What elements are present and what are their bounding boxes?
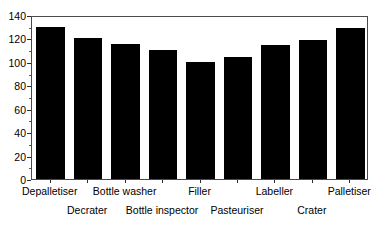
x-axis-tick-label: Bottle washer (93, 186, 157, 197)
bar (74, 38, 102, 179)
y-axis-tick-label: 40 (14, 128, 26, 139)
bar (299, 40, 327, 179)
x-axis-tick-label: Crater (297, 205, 326, 216)
x-axis-tick-mark (50, 180, 51, 183)
plot-area (31, 16, 368, 180)
x-axis-tick-mark (162, 180, 163, 183)
x-axis-tick-mark (349, 180, 350, 183)
x-axis-tick-mark (125, 180, 126, 183)
x-axis-tick-label: Labeller (256, 186, 293, 197)
x-axis-tick-label: Bottle inspector (126, 205, 198, 216)
bar (224, 57, 252, 179)
x-axis-tick-mark (237, 180, 238, 183)
bar (36, 27, 64, 179)
bar (336, 28, 364, 179)
x-axis-tick-mark (312, 180, 313, 183)
bar (261, 45, 289, 179)
y-axis-tick-label: 100 (8, 58, 26, 69)
x-axis-tick-label: Decrater (67, 205, 107, 216)
x-axis-tick-label: Palletiser (328, 186, 371, 197)
y-axis-tick-label: 80 (14, 81, 26, 92)
x-axis-tick-mark (200, 180, 201, 183)
bar (111, 44, 139, 179)
bar-chart: 020406080100120140 DepalletiserDecraterB… (0, 0, 380, 226)
x-axis-tick-mark (87, 180, 88, 183)
bars-container (32, 17, 367, 179)
x-axis-tick-mark (274, 180, 275, 183)
x-axis: DepalletiserDecraterBottle washerBottle … (0, 180, 380, 226)
y-axis-tick-label: 120 (8, 34, 26, 45)
x-axis-tick-label: Pasteuriser (210, 205, 263, 216)
bar (149, 50, 177, 179)
y-axis-tick-label: 140 (8, 11, 26, 22)
y-axis-tick-label: 60 (14, 104, 26, 115)
bar (186, 62, 214, 179)
x-axis-tick-label: Depalletiser (22, 186, 77, 197)
x-axis-tick-label: Filler (188, 186, 211, 197)
y-axis-tick-label: 20 (14, 151, 26, 162)
